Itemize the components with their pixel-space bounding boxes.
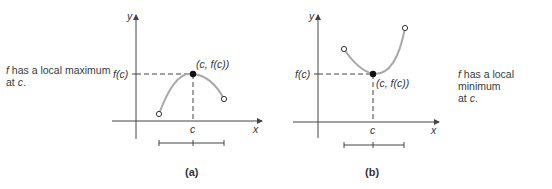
- panel-b-local-minimum: y x f(c) c (c, f(c)) (b): [293, 10, 439, 178]
- x-axis-label: x: [430, 124, 437, 136]
- open-endpoint-right: [221, 96, 226, 101]
- y-tick-label: f(c): [113, 68, 128, 80]
- open-endpoint-left: [156, 111, 161, 116]
- open-endpoint-left: [341, 46, 346, 51]
- y-tick-label: f(c): [295, 68, 310, 80]
- function-curve: [344, 28, 405, 74]
- panel-label: (a): [185, 166, 199, 178]
- maximum-point: [190, 71, 196, 77]
- x-axis-label: x: [252, 123, 259, 135]
- function-curve: [159, 74, 224, 114]
- panel-label: (b): [365, 166, 379, 178]
- x-tick-label: c: [190, 123, 196, 135]
- interval-marker: [159, 140, 224, 146]
- y-axis-label: y: [308, 10, 315, 22]
- point-label: (c, f(c)): [376, 77, 409, 89]
- interval-marker: [344, 142, 404, 148]
- open-endpoint-right: [402, 25, 407, 30]
- x-tick-label: c: [370, 124, 376, 136]
- panel-a-local-maximum: y x f(c) c (c, f(c)) (a): [112, 10, 262, 178]
- point-label: (c, f(c)): [196, 58, 229, 70]
- y-axis-label: y: [126, 10, 133, 22]
- extrema-diagram: y x f(c) c (c, f(c)) (a) y x: [0, 0, 552, 189]
